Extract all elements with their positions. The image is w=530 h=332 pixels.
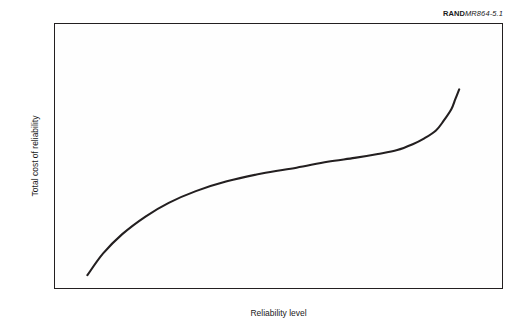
total-cost-curve xyxy=(87,89,459,275)
plot-area xyxy=(54,23,503,289)
figure-tag-number: MR864-5.1 xyxy=(465,9,503,18)
figure-source-tag: RANDMR864-5.1 xyxy=(443,9,503,18)
figure-tag-brand: RAND xyxy=(443,9,465,18)
y-axis-title: Total cost of reliability xyxy=(26,23,44,289)
figure-canvas: RANDMR864-5.1 Total cost of reliability … xyxy=(0,0,530,332)
x-axis-title: Reliability level xyxy=(54,308,503,318)
cost-curve-chart xyxy=(55,24,502,288)
